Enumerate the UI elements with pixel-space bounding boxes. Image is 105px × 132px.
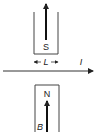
magnetic-field-diagram: S L I N B [0, 0, 105, 132]
top-magnet: S [34, 4, 58, 54]
pole-label-n: N [44, 89, 51, 99]
pole-label-s: S [43, 42, 49, 52]
current-label: I [80, 57, 83, 67]
field-label: B [37, 122, 43, 132]
width-indicator: L [34, 57, 58, 67]
bottom-magnet: N B [35, 85, 59, 132]
width-label: L [43, 57, 48, 67]
